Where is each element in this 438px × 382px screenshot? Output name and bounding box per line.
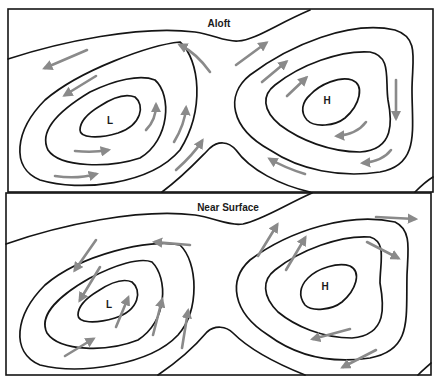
panel-aloft: Aloft L H: [8, 9, 433, 192]
wind-arrow: [337, 122, 366, 136]
wind-arrow: [286, 238, 305, 270]
wind-arrow: [258, 225, 277, 256]
isobar-corner-br: [418, 363, 431, 375]
isobar-outer-top: [8, 10, 310, 59]
wind-arrow: [174, 108, 186, 142]
wind-arrow: [75, 150, 108, 152]
wind-arrow: [287, 78, 306, 96]
isobar-outer-bottom: [158, 327, 305, 375]
wind-arrows-near-surface: [65, 217, 415, 367]
wind-arrow: [367, 242, 398, 258]
wind-arrow: [153, 300, 162, 335]
wind-arrow: [55, 174, 96, 177]
wind-arrows-aloft: [45, 43, 396, 177]
low-label-aloft: L: [107, 115, 113, 126]
pressure-wind-diagram: Aloft L H: [0, 0, 438, 382]
isobar-low-2: [45, 260, 163, 348]
wind-arrow: [176, 141, 202, 170]
panel-aloft-frame: [8, 9, 433, 192]
wind-arrow: [155, 242, 190, 245]
panel-aloft-title: Aloft: [208, 18, 231, 29]
wind-arrow: [80, 267, 100, 300]
wind-arrow: [45, 50, 87, 68]
isobar-outer-top: [6, 193, 312, 244]
wind-arrow: [75, 240, 96, 270]
wind-arrow: [376, 217, 415, 219]
wind-arrow: [270, 159, 305, 174]
panel-near-surface: Near Surface L H: [6, 193, 431, 375]
wind-arrow: [146, 105, 156, 130]
isobar-corner-br: [415, 177, 433, 192]
isobar-high-3: [303, 79, 360, 125]
high-label-near-surface: H: [321, 281, 328, 292]
low-label-near-surface: L: [106, 299, 112, 310]
wind-arrow: [236, 43, 266, 65]
high-label-aloft: H: [323, 95, 330, 106]
panel-near-surface-title: Near Surface: [197, 202, 259, 213]
